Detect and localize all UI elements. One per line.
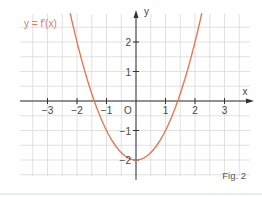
- svg-text:1: 1: [163, 105, 169, 116]
- svg-text:x: x: [243, 86, 248, 97]
- grid-lines: [20, 14, 250, 176]
- svg-text:3: 3: [222, 105, 228, 116]
- svg-text:−1: −1: [120, 126, 132, 137]
- svg-text:1: 1: [125, 67, 131, 78]
- svg-text:−2: −2: [120, 155, 132, 166]
- svg-text:−1: −1: [101, 105, 113, 116]
- svg-text:2: 2: [125, 37, 131, 48]
- svg-text:y: y: [144, 6, 149, 17]
- divider: [0, 193, 262, 195]
- figure-caption: Fig. 2: [222, 170, 246, 181]
- svg-text:O: O: [124, 105, 132, 116]
- chart-figure: −3−2−1123−2−112Oxy y = f′(x): [0, 0, 262, 197]
- axes: [20, 10, 254, 180]
- svg-text:−2: −2: [71, 105, 83, 116]
- svg-text:2: 2: [192, 105, 198, 116]
- function-label: y = f′(x): [24, 18, 57, 29]
- svg-text:−3: −3: [42, 105, 54, 116]
